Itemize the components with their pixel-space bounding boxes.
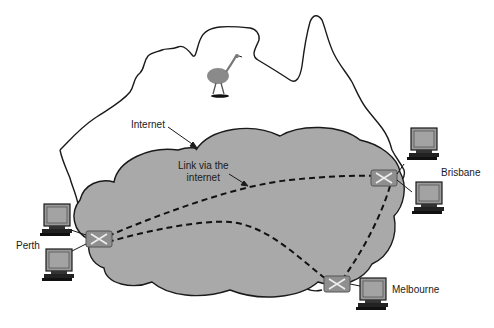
computer-perth-1[interactable] [40, 204, 72, 236]
internet-label: Internet [131, 120, 165, 130]
perth-label: Perth [16, 241, 40, 251]
computer-brisbane-1[interactable] [407, 128, 439, 160]
computer-melbourne-1[interactable] [356, 278, 388, 310]
link-label-line1: Link via the [178, 160, 229, 172]
router-melbourne[interactable] [324, 276, 350, 292]
router-perth[interactable] [86, 231, 112, 247]
brisbane-label: Brisbane [441, 168, 480, 178]
internet-cloud [74, 127, 404, 297]
computer-brisbane-2[interactable] [412, 182, 444, 214]
melbourne-label: Melbourne [392, 285, 439, 295]
emu-icon [207, 54, 242, 98]
network-diagram: Internet Link via the internet Perth Bri… [0, 0, 494, 328]
router-brisbane[interactable] [371, 170, 397, 186]
computer-perth-2[interactable] [42, 249, 74, 281]
link-label: Link via the internet [178, 160, 229, 184]
link-label-line2: internet [178, 172, 229, 184]
